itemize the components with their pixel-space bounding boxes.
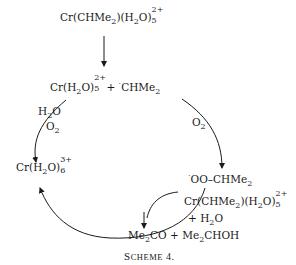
reaction-arrows	[0, 0, 296, 265]
hom-charge: 2+5	[94, 80, 103, 90]
label-right-o2: O2	[192, 117, 206, 131]
species-products: Me2CO + Me2CHOH	[128, 230, 239, 244]
prod-a-rest: CO + Me	[150, 229, 199, 241]
crp-count-sub: 6	[60, 167, 65, 175]
ro2-sub: 2	[201, 122, 206, 131]
hom-text-1: Cr(H	[50, 81, 76, 93]
hom-count-sub: 5	[94, 85, 99, 93]
hom-plus: +	[103, 81, 118, 93]
crp-charge-sup: 3+	[60, 156, 72, 164]
prod-b-rest: CHOH	[204, 229, 239, 241]
co-charge-sup: 2+	[276, 190, 288, 198]
hom-charge-sup: 2+	[94, 74, 106, 82]
hom-sub-2: 2	[155, 87, 160, 96]
water-text: + H	[188, 212, 209, 224]
prod-a: Me	[128, 229, 145, 241]
start-text-3: O)	[139, 11, 152, 23]
species-homolysis: Cr(H2O)2+5 + ·CHMe2	[50, 80, 160, 96]
label-left-o2: O2	[46, 121, 60, 135]
caption-first: S	[124, 250, 131, 262]
water-o: O	[214, 212, 223, 224]
hom-text-2: O)	[81, 81, 94, 93]
start-charge-sup: 2+	[152, 6, 164, 14]
lo2-o: O	[46, 120, 55, 132]
co-text-3: O)	[263, 195, 276, 207]
species-water: + H2O	[188, 213, 223, 227]
per-sub: 2	[247, 179, 252, 188]
caption-rest: CHEME	[131, 252, 163, 262]
crp-text-1: Cr(H	[16, 161, 42, 173]
caption-number: 4.	[163, 251, 175, 262]
co-reactant-arrow	[147, 192, 178, 218]
o2-addition-arrow	[182, 99, 222, 168]
co-count-sub: 5	[276, 201, 281, 209]
co-charge: 2+5	[276, 196, 285, 206]
species-peroxyl: ·OO–CHMe2	[188, 172, 252, 188]
lo2-sub: 2	[55, 126, 60, 135]
start-text-2: )(H	[116, 11, 133, 23]
ro2-o: O	[192, 116, 201, 128]
lh2o-o: O	[52, 105, 61, 117]
crp-charge: 3+6	[60, 162, 69, 172]
scheme-caption: SCHEME 4.	[124, 250, 174, 262]
start-text-1: Cr(CHMe	[60, 11, 111, 23]
species-start: Cr(CHMe2)(H2O)2+5	[60, 12, 161, 26]
crp-text-2: O)	[47, 161, 60, 173]
co-text-2: )(H	[240, 195, 257, 207]
species-co-reactant: Cr(CHMe2)(H2O)2+5	[184, 196, 285, 210]
lh2o-h: H	[38, 105, 47, 117]
hom-text-3: CHMe	[121, 81, 155, 93]
start-count-sub: 5	[152, 17, 157, 25]
per-text: OO–CHMe	[191, 173, 248, 185]
co-text-1: Cr(CHMe	[184, 195, 235, 207]
start-charge: 2+5	[152, 12, 161, 22]
species-chromium-product: Cr(H2O)3+6	[16, 162, 69, 176]
label-left-h2o: H2O	[38, 106, 61, 120]
